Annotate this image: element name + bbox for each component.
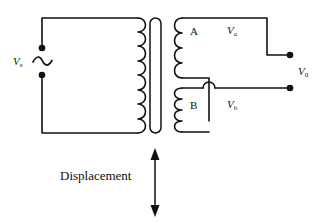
- displacement-label: Displacement: [60, 169, 131, 182]
- output-terminal-top: [287, 52, 294, 59]
- lvdt-circuit-figure: Vs A B Va Vb V0 Displacement: [0, 0, 320, 223]
- output-voltage-label: V0: [298, 66, 308, 79]
- coil-a-label: A: [190, 26, 198, 37]
- voltage-a-label: Va: [227, 25, 237, 38]
- primary-circuit-group: [42, 18, 146, 133]
- circuit-schematic-svg: [0, 0, 320, 223]
- primary-top-wire: [42, 18, 138, 48]
- output-terminal-bottom: [287, 85, 294, 92]
- source-voltage-label: Vs: [13, 56, 23, 69]
- primary-bottom-wire: [42, 75, 138, 133]
- displacement-double-arrow: [151, 148, 160, 217]
- secondary-coil-a-winding: [175, 18, 183, 78]
- primary-coil: [138, 18, 146, 133]
- ac-source-symbol: [33, 57, 52, 65]
- secondary-coil-b-winding: [175, 88, 183, 132]
- source-terminal-bottom: [39, 72, 46, 79]
- movable-core: [150, 18, 161, 133]
- source-terminal-top: [39, 45, 46, 52]
- voltage-b-label: Vb: [227, 99, 237, 112]
- coil-b-label: B: [190, 100, 197, 111]
